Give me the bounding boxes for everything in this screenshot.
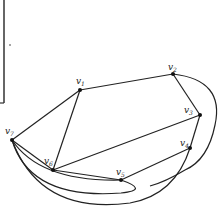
vertex-v7 [10,138,14,142]
label-v1: v1 [76,76,85,87]
label-v4: v4 [180,138,189,149]
edge-v7-v4-curve [12,140,190,205]
label-v7: v7 [5,126,14,137]
stray-dot [9,44,11,46]
label-v5: v5 [116,167,125,178]
vertex-v1 [78,88,82,92]
edge-v1-v7 [12,90,80,140]
vertex-v6 [51,168,55,172]
edge-v5-v4 [121,148,190,180]
vertex-v5 [119,178,123,182]
label-v2: v2 [168,62,177,73]
edge-v1-v2 [80,74,173,90]
label-v3: v3 [184,105,193,116]
label-v6: v6 [44,156,53,167]
vertices [10,72,202,182]
graph-diagram: v1 v2 v3 v4 v5 v6 v7 [0,0,221,210]
vertex-v3 [198,113,202,117]
edge-v6-v3 [53,115,200,170]
edge-v7-v5-curve-a [12,140,121,180]
edge-v3-v4 [190,115,200,148]
edges [12,74,217,205]
edge-v1-v6 [53,90,80,170]
